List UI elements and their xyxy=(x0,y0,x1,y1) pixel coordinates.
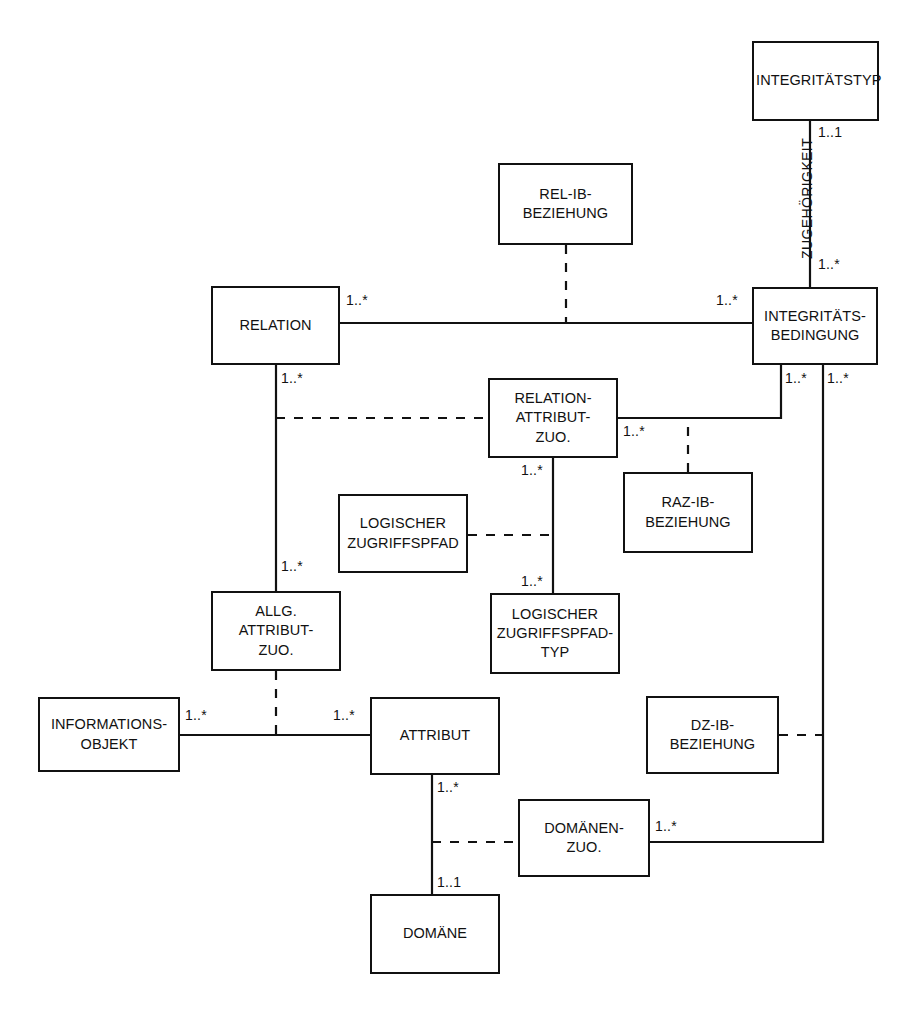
entity-label: INTEGRITÄTSTYP xyxy=(756,71,875,90)
cardinality-relation-down: 1..* xyxy=(281,370,303,386)
entity-dz-ib-beziehung[interactable]: DZ-IB-BEZIEHUNG xyxy=(646,696,779,774)
entity-rel-ib-beziehung[interactable]: REL-IB-BEZIEHUNG xyxy=(498,163,633,245)
entity-label: ALLG.ATTRIBUT-ZUO. xyxy=(215,602,337,659)
cardinality-domaene-up: 1..1 xyxy=(437,874,461,890)
cardinality-lzptyp-up: 1..* xyxy=(521,573,543,589)
cardinality-integritaetsbedingung-left: 1..* xyxy=(716,292,738,308)
cardinality-attribut-left: 1..* xyxy=(333,707,355,723)
entity-label: RAZ-IB-BEZIEHUNG xyxy=(627,493,749,531)
entity-label: RELATION xyxy=(215,316,336,335)
cardinality-integritaetsbedingung-bottom-left: 1..* xyxy=(785,370,807,386)
entity-allg-attribut-zuo[interactable]: ALLG.ATTRIBUT-ZUO. xyxy=(211,591,341,671)
cardinality-relationattributzuo-right: 1..* xyxy=(623,423,645,439)
entity-label: LOGISCHERZUGRIFFSPFAD xyxy=(342,514,464,552)
entity-relation-attribut-zuo[interactable]: RELATION-ATTRIBUT-ZUO. xyxy=(488,378,618,458)
entity-label: DZ-IB-BEZIEHUNG xyxy=(650,716,775,754)
entity-relation[interactable]: RELATION xyxy=(211,286,340,365)
er-diagram-canvas: INTEGRITÄTSTYP REL-IB-BEZIEHUNG RELATION… xyxy=(0,0,915,1020)
entity-logischer-zugriffspfad-typ[interactable]: LOGISCHERZUGRIFFSPFAD-TYP xyxy=(490,593,620,674)
cardinality-informationsobjekt-right: 1..* xyxy=(185,707,207,723)
entity-domaenen-zuo[interactable]: DOMÄNEN-ZUO. xyxy=(518,799,650,877)
entity-integritaets-bedingung[interactable]: INTEGRITÄTS-BEDINGUNG xyxy=(752,287,878,365)
cardinality-domaenenzuo-right: 1..* xyxy=(655,818,677,834)
connector-relationattributzuo-integritaetsbedingung xyxy=(618,365,781,418)
entity-informations-objekt[interactable]: INFORMATIONS-OBJEKT xyxy=(38,697,180,772)
entity-domaene[interactable]: DOMÄNE xyxy=(370,894,500,974)
cardinality-allgattributzuo-up: 1..* xyxy=(281,558,303,574)
entity-label: ATTRIBUT xyxy=(374,726,496,745)
entity-label: INFORMATIONS-OBJEKT xyxy=(42,715,176,753)
entity-label: DOMÄNEN-ZUO. xyxy=(522,819,646,857)
entity-logischer-zugriffspfad[interactable]: LOGISCHERZUGRIFFSPFAD xyxy=(338,494,468,573)
entity-label: DOMÄNE xyxy=(374,924,496,943)
entity-attribut[interactable]: ATTRIBUT xyxy=(370,697,500,775)
cardinality-relationattributzuo-down: 1..* xyxy=(521,462,543,478)
cardinality-integritaetsbedingung-up: 1..* xyxy=(818,256,840,272)
cardinality-integritaetstyp-down: 1..1 xyxy=(818,124,842,140)
association-label-zugehoerigkeit: ZUGEHÖRIGKEIT xyxy=(799,149,815,259)
cardinality-attribut-down: 1..* xyxy=(437,779,459,795)
entity-integritaetstyp[interactable]: INTEGRITÄTSTYP xyxy=(752,41,879,121)
entity-raz-ib-beziehung[interactable]: RAZ-IB-BEZIEHUNG xyxy=(623,472,753,553)
entity-label: LOGISCHERZUGRIFFSPFAD-TYP xyxy=(494,605,616,662)
entity-label: REL-IB-BEZIEHUNG xyxy=(502,185,629,223)
entity-label: RELATION-ATTRIBUT-ZUO. xyxy=(492,389,614,446)
cardinality-integritaetsbedingung-bottom-right: 1..* xyxy=(827,370,849,386)
entity-label: INTEGRITÄTS-BEDINGUNG xyxy=(756,307,874,345)
cardinality-relation-right: 1..* xyxy=(346,292,368,308)
